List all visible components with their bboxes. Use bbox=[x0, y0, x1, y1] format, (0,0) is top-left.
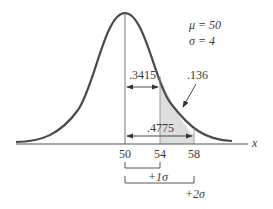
one-sigma-label: +1σ bbox=[148, 170, 169, 184]
mu-label: μ = 50 bbox=[188, 18, 221, 32]
tick-58: 58 bbox=[188, 147, 200, 161]
two-sigma-label: +2σ bbox=[185, 187, 206, 201]
one-sigma-bracket bbox=[125, 162, 160, 168]
normal-distribution-diagram: x μ = 50 σ = 4 .3415 .4775 .136 50 54 58… bbox=[0, 0, 273, 209]
tick-50: 50 bbox=[119, 147, 131, 161]
x-axis-label: x bbox=[251, 136, 258, 150]
sigma-label: σ = 4 bbox=[189, 34, 215, 48]
tick-54: 54 bbox=[154, 147, 166, 161]
area-label-3415: .3415 bbox=[129, 68, 156, 82]
area-label-136: .136 bbox=[187, 68, 208, 82]
arrow-136 bbox=[183, 84, 196, 107]
area-label-4775: .4775 bbox=[147, 121, 174, 135]
